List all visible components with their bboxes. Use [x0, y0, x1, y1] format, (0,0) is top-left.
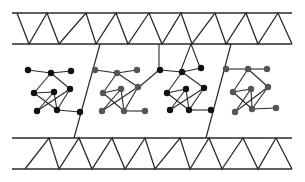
bond — [189, 88, 204, 110]
bond — [117, 73, 138, 87]
bond — [235, 89, 251, 112]
atom-node — [167, 107, 173, 113]
atom-node — [198, 65, 204, 71]
atom-node — [273, 105, 279, 111]
molecule-1 — [25, 67, 83, 115]
atom-node — [223, 66, 229, 72]
diagram-canvas — [0, 0, 305, 182]
atom-node — [249, 106, 255, 112]
atom-node — [201, 85, 207, 91]
atom-node — [157, 67, 163, 73]
bond — [28, 70, 51, 73]
link-line-2 — [181, 44, 191, 70]
bond — [51, 73, 70, 89]
link-line-4 — [138, 70, 159, 88]
atom-node — [31, 90, 37, 96]
atom-node — [100, 90, 106, 96]
atom-node — [51, 89, 57, 95]
atom-node — [186, 107, 192, 113]
bond — [248, 69, 268, 87]
bond — [57, 89, 70, 110]
bottom-band-zigzag — [25, 138, 292, 169]
atom-node — [134, 67, 140, 73]
divider-line-1 — [74, 44, 100, 138]
atom-node — [54, 107, 60, 113]
bond — [233, 69, 248, 92]
bond — [34, 73, 51, 93]
bond — [182, 72, 204, 88]
bond — [57, 110, 80, 112]
molecule-4 — [223, 66, 279, 115]
slanted-dividers — [74, 44, 231, 138]
layered-structure-diagram — [0, 0, 305, 182]
bond — [252, 108, 276, 109]
atom-node — [264, 66, 270, 72]
atom-node — [99, 108, 105, 114]
atom-node — [68, 68, 74, 74]
atom-node — [92, 67, 98, 73]
atom-node — [48, 70, 54, 76]
atom-node — [245, 66, 251, 72]
atom-node — [248, 86, 254, 92]
atom-node — [77, 109, 83, 115]
atom-node — [142, 108, 148, 114]
atom-node — [164, 90, 170, 96]
molecule-2 — [92, 67, 148, 114]
atom-node — [121, 108, 127, 114]
connecting-links — [138, 44, 231, 88]
atom-node — [114, 70, 120, 76]
top-band-zigzag — [17, 13, 292, 44]
molecule-clusters — [25, 65, 279, 115]
atom-node — [208, 107, 214, 113]
bond — [160, 70, 182, 72]
bond — [95, 70, 117, 73]
bond — [124, 87, 138, 111]
divider-line-2 — [206, 44, 231, 138]
bond — [121, 89, 124, 111]
atom-node — [34, 108, 40, 114]
atom-node — [135, 84, 141, 90]
atom-node — [67, 86, 73, 92]
bottom-triangulated-band — [12, 138, 292, 169]
molecule-3 — [157, 65, 214, 113]
atom-node — [25, 67, 31, 73]
top-triangulated-band — [12, 13, 292, 44]
atom-node — [265, 84, 271, 90]
bond — [252, 87, 268, 109]
atom-node — [232, 109, 238, 115]
atom-node — [183, 86, 189, 92]
atom-node — [118, 86, 124, 92]
atom-node — [230, 89, 236, 95]
atom-node — [179, 69, 185, 75]
